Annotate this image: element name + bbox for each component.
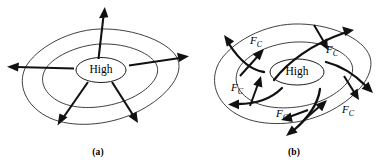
arrowhead-bottom-right-a: [129, 112, 138, 124]
arrowhead-coriolis-1-b: [253, 49, 265, 60]
pgf-arrow-left-a: [16, 67, 74, 69]
arrowhead-left-a: [7, 63, 19, 72]
arrowhead-traj-upper-right-b: [342, 27, 354, 37]
high-pressure-label-b: High: [286, 65, 309, 78]
high-pressure-label-a: High: [90, 63, 113, 76]
arrowhead-right-a: [177, 53, 189, 62]
arrowhead-coriolis-3-b: [253, 76, 262, 88]
coriolis-label-2-b: FC: [325, 43, 339, 58]
arrowhead-top-a: [99, 7, 108, 18]
panel-a-diagram: High: [0, 0, 196, 160]
arrowhead-coriolis-5-b: [350, 88, 359, 100]
trajectory-right-b: [326, 62, 366, 86]
coriolis-label-4-b: FC: [275, 107, 289, 122]
panel-a: High (a): [0, 0, 196, 160]
coriolis-label-3-b: FC: [230, 81, 244, 96]
coriolis-arrow-1-b: [240, 56, 258, 76]
figure-root: High (a): [0, 0, 392, 160]
panel-b: High: [196, 0, 392, 160]
coriolis-label-1-b: FC: [249, 34, 263, 49]
arrowhead-traj-lower-left-b: [228, 100, 239, 110]
coriolis-label-5-b: FC: [341, 103, 355, 118]
panel-b-diagram: High: [196, 0, 392, 160]
pgf-arrow-right-a: [129, 58, 180, 66]
panel-b-caption: (b): [196, 147, 392, 157]
coriolis-arrow-6-b: [289, 110, 308, 117]
panel-a-caption: (a): [0, 147, 196, 157]
pgf-arrow-top-a: [99, 16, 104, 59]
arrowhead-traj-upper-left-b: [224, 35, 234, 47]
coriolis-arrow-2-b: [314, 25, 324, 42]
pgf-arrow-bottom-left-a: [63, 82, 88, 118]
